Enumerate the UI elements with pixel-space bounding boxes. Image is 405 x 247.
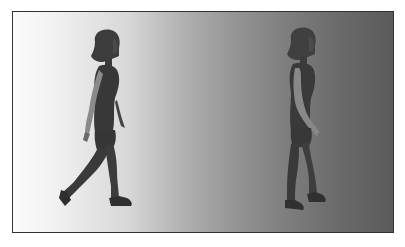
image-frame	[12, 11, 394, 233]
walking-figure-right	[269, 24, 349, 214]
walking-figure-left	[49, 26, 149, 216]
